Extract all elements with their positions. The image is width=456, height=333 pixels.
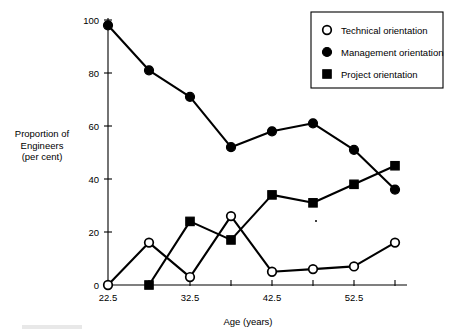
y-tick-label-20: 20	[88, 227, 99, 238]
data-point-1-5	[309, 119, 318, 128]
chart-figure: Proportion of Engineers (per cent) 02040…	[0, 0, 456, 333]
data-point-1-7	[391, 185, 400, 194]
legend-label-1: Management orientation	[341, 47, 443, 58]
y-tick-label-80: 80	[88, 68, 99, 79]
y-tick-label-0: 0	[94, 280, 99, 291]
y-tick-label-100: 100	[83, 15, 99, 26]
legend-group: Technical orientationManagement orientat…	[311, 12, 443, 88]
data-point-2-0	[145, 281, 153, 289]
data-point-0-5	[309, 265, 318, 274]
legend-label-0: Technical orientation	[341, 25, 428, 36]
legend-marker-filled-circle	[323, 48, 332, 57]
x-tick-label-22.5: 22.5	[99, 292, 118, 303]
data-point-2-6	[391, 162, 399, 170]
data-point-1-2	[186, 92, 195, 101]
x-tick-label-42.5: 42.5	[263, 292, 282, 303]
legend-label-2: Project orientation	[341, 69, 418, 80]
data-point-2-3	[268, 191, 276, 199]
data-point-0-4	[268, 267, 277, 276]
plot-area: 02040608010022.532.542.552.5 Technical o…	[0, 0, 456, 333]
y-tick-label-60: 60	[88, 121, 99, 132]
data-point-1-0	[104, 21, 113, 30]
data-point-0-3	[227, 212, 236, 221]
x-axis-title: Age (years)	[223, 316, 272, 327]
data-point-2-2	[227, 236, 235, 244]
data-point-2-1	[186, 217, 194, 225]
data-point-0-0	[104, 281, 113, 290]
series-line-0	[108, 216, 395, 285]
legend-marker-open-circle	[323, 26, 332, 35]
data-point-1-6	[350, 145, 359, 154]
legend-marker-filled-square	[323, 70, 331, 78]
data-point-0-1	[145, 238, 154, 247]
series-0	[104, 212, 400, 290]
data-point-2-5	[350, 180, 358, 188]
data-point-2-4	[309, 199, 317, 207]
data-point-0-6	[350, 262, 359, 271]
y-tick-label-40: 40	[88, 174, 99, 185]
x-tick-label-32.5: 32.5	[181, 292, 200, 303]
data-point-0-2	[186, 273, 195, 282]
data-point-0-7	[391, 238, 400, 247]
legend-item-1[interactable]: Management orientation	[323, 47, 444, 58]
x-tick-label-52.5: 52.5	[345, 292, 364, 303]
data-point-1-3	[227, 143, 236, 152]
data-point-1-4	[268, 127, 277, 136]
data-point-1-1	[145, 66, 154, 75]
